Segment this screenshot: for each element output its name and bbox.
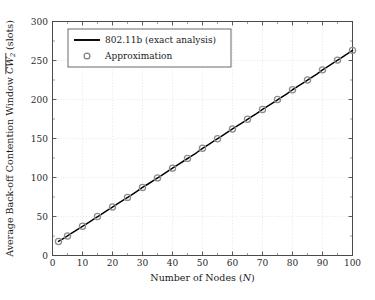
y-tick-label: 250: [31, 56, 48, 66]
y-title-suffix: (slots): [4, 20, 15, 53]
x-axis-title-text: Number of Nodes (N): [150, 272, 254, 283]
legend-label-approximation: Approximation: [104, 51, 173, 61]
x-tick-label: 20: [107, 258, 119, 268]
y-tick-label: 100: [31, 173, 48, 183]
y-title-prefix: Average Back-off Contention Window: [4, 74, 15, 258]
contention-window-chart: 0102030405060708090100 05010015020025030…: [0, 0, 375, 300]
x-tick-label: 50: [197, 258, 209, 268]
x-tick-label: 100: [344, 258, 361, 268]
x-axis-title: Number of Nodes (N): [150, 272, 254, 283]
y-tick-label: 50: [37, 212, 49, 222]
x-title-main: Number of Nodes (: [150, 272, 243, 283]
y-tick-label: 0: [42, 251, 48, 261]
x-tick-label: 70: [257, 258, 269, 268]
chart-figure: 0102030405060708090100 05010015020025030…: [0, 0, 375, 300]
y-tick-label: 150: [31, 134, 48, 144]
x-tick-label: 80: [287, 258, 299, 268]
y-tick-label: 200: [31, 95, 48, 105]
x-tick-label: 0: [50, 258, 56, 268]
x-tick-label: 60: [227, 258, 239, 268]
x-tick-label: 10: [77, 258, 89, 268]
x-title-tail: ): [251, 272, 255, 283]
x-tick-label: 90: [317, 258, 329, 268]
legend: 802.11b (exact analysis)Approximation: [68, 29, 231, 67]
x-tick-label: 30: [137, 258, 149, 268]
legend-label-exact-analysis: 802.11b (exact analysis): [105, 35, 216, 45]
x-tick-label: 40: [167, 258, 179, 268]
y-tick-label: 300: [31, 17, 48, 27]
